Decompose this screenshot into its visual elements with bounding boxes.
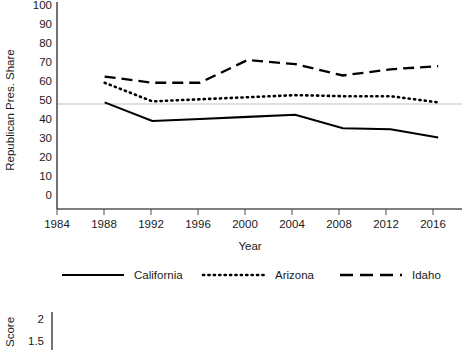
y-tick-label: 30: [39, 132, 52, 144]
x-tick-label: 1996: [185, 218, 211, 230]
legend-label-california: California: [134, 269, 183, 281]
y-tick-label: 20: [39, 151, 52, 163]
legend-label-idaho: Idaho: [412, 269, 441, 281]
lower-chart-svg: Score 2 1.5: [0, 300, 464, 350]
y-tick-label: 60: [39, 75, 52, 87]
y-tick-label: 40: [39, 113, 52, 125]
series-line-arizona: [105, 83, 439, 103]
x-tick-label: 1984: [44, 218, 70, 230]
chart-svg: Republican Pres. Share 100 90 80 70 60 5…: [0, 0, 464, 300]
series-group: [105, 60, 439, 138]
y-tick-label: 100: [33, 0, 52, 11]
x-tick-label: 2004: [279, 218, 305, 230]
x-tick-label: 1992: [138, 218, 164, 230]
series-line-idaho: [105, 60, 439, 83]
y-tick-label: 0: [46, 189, 52, 201]
y-tick-label: 10: [39, 170, 52, 182]
x-tick-label: 2012: [373, 218, 399, 230]
lower-y-tick-label: 1.5: [28, 335, 44, 347]
y-tick-label: 50: [39, 94, 52, 106]
x-tick-label: 1988: [91, 218, 117, 230]
legend-label-arizona: Arizona: [275, 269, 315, 281]
lower-y-axis-title: Score: [4, 317, 16, 347]
x-tick-label: 2016: [420, 218, 446, 230]
republican-pres-share-chart: Republican Pres. Share 100 90 80 70 60 5…: [0, 0, 464, 300]
y-axis-title: Republican Pres. Share: [4, 49, 16, 170]
legend: California Arizona Idaho: [62, 269, 441, 281]
lower-y-tick-label: 2: [38, 313, 44, 325]
x-tick-label: 2000: [232, 218, 258, 230]
lower-partial-chart: Score 2 1.5: [0, 300, 464, 350]
y-tick-label: 80: [39, 37, 52, 49]
series-line-california: [105, 102, 439, 137]
y-tick-label: 70: [39, 56, 52, 68]
x-tick-label: 2008: [326, 218, 352, 230]
x-axis-title: Year: [238, 240, 261, 252]
y-tick-label: 90: [39, 18, 52, 30]
